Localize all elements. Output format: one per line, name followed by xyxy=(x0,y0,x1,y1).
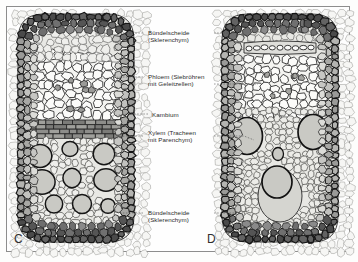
label-buendelscheide-bottom-line-2: (Sklerenchym) xyxy=(148,216,190,223)
label-buendelscheide-bottom-line-1: Bündelscheide xyxy=(148,209,190,216)
label-kambium: Kambium xyxy=(152,111,179,118)
label-xylem-line-1: Xylem (Tracheen xyxy=(148,129,196,136)
figure-root: Bündelscheide(Sklerenchym)Phloem (Siebrö… xyxy=(0,0,358,262)
panel-c-letter: C xyxy=(14,232,23,246)
label-buendelscheide-top-line-1: Bündelscheide xyxy=(148,29,190,36)
label-phloem-line-2: mit Geleitzellen) xyxy=(148,80,204,87)
label-kambium-line-1: Kambium xyxy=(152,111,179,118)
label-phloem-line-1: Phloem (Siebröhren xyxy=(148,73,204,80)
label-phloem: Phloem (Siebröhrenmit Geleitzellen) xyxy=(148,73,204,88)
panel-d-letter: D xyxy=(207,232,216,246)
label-buendelscheide-top: Bündelscheide(Sklerenchym) xyxy=(148,29,190,44)
label-xylem-line-2: mit Parenchym) xyxy=(148,136,196,143)
panel-c-cross-section xyxy=(7,8,152,257)
label-buendelscheide-bottom: Bündelscheide(Sklerenchym) xyxy=(148,209,190,224)
panel-d-cross-section xyxy=(211,9,356,258)
label-xylem: Xylem (Tracheenmit Parenchym) xyxy=(148,129,196,144)
label-buendelscheide-top-line-2: (Sklerenchym) xyxy=(148,36,190,43)
